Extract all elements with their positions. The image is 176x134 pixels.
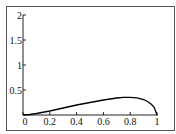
y-tick-label: 1.5 [10,35,23,46]
data-curve [23,97,157,115]
y-tick-label: 0.5 [10,85,23,96]
x-tick-label: 0.8 [124,116,137,127]
x-tick-label: 1 [155,116,160,127]
y-ticks: 0.511.52 [10,10,27,96]
x-tick-label: 0 [23,116,28,127]
y-tick-label: 2 [17,10,22,21]
x-tick-label: 0.4 [70,116,83,127]
x-tick-label: 0.6 [97,116,110,127]
y-tick-label: 1 [17,60,22,71]
x-tick-label: 0.2 [44,116,57,127]
chart: 00.20.40.60.81 0.511.52 [0,0,176,134]
x-ticks: 00.20.40.60.81 [23,112,160,127]
plot-frame [7,7,175,131]
